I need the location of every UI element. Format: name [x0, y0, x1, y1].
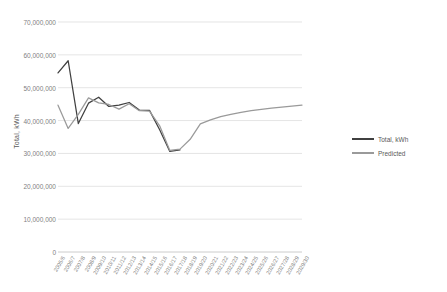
- chart-container: Total, kWh 70,000,00060,000,00050,000,00…: [0, 0, 447, 292]
- legend-label-predicted: Predicted: [378, 150, 405, 157]
- legend-item-predicted: Predicted: [352, 146, 444, 160]
- legend-label-total: Total, kWh: [378, 136, 408, 143]
- chart-legend: Total, kWh Predicted: [352, 132, 444, 160]
- legend-swatch-total: [352, 138, 374, 140]
- legend-item-total: Total, kWh: [352, 132, 444, 146]
- legend-swatch-predicted: [352, 152, 374, 154]
